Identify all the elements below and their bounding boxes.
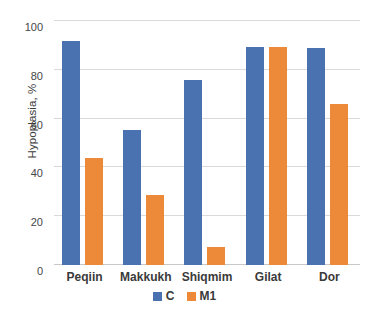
legend-entry-m1: M1 — [187, 290, 217, 302]
bar-group — [299, 21, 360, 265]
bar-gilat-c — [246, 47, 264, 265]
bar-group — [176, 21, 237, 265]
legend-swatch-icon — [153, 292, 162, 301]
bar-dor-m1 — [330, 104, 348, 265]
legend-swatch-icon — [187, 292, 196, 301]
x-axis-tick-label: Dor — [281, 270, 369, 284]
bar-dor-c — [307, 48, 325, 265]
bar-chart: Hypoplasia, % 020406080100 PeqiinMakkukh… — [0, 0, 369, 317]
chart-legend: CM1 — [0, 290, 369, 302]
legend-label: C — [166, 290, 175, 302]
bar-gilat-m1 — [269, 47, 287, 265]
bar-group — [54, 21, 115, 265]
legend-entry-c: C — [153, 290, 175, 302]
bar-group — [238, 21, 299, 265]
bar-makkukh-m1 — [146, 195, 164, 265]
bar-group — [115, 21, 176, 265]
bar-shiqmim-m1 — [207, 247, 225, 265]
legend-label: M1 — [200, 290, 217, 302]
bar-makkukh-c — [123, 130, 141, 265]
plot-area: 020406080100 — [54, 21, 360, 265]
bar-peqiin-c — [62, 41, 80, 265]
bar-peqiin-m1 — [85, 158, 103, 265]
bar-shiqmim-c — [184, 80, 202, 265]
